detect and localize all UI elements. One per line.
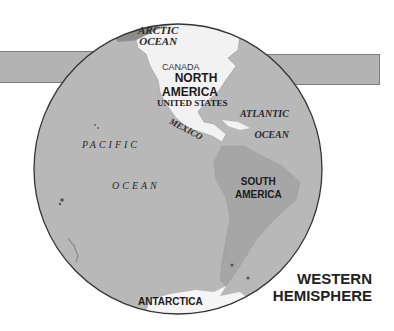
map-title: WESTERN HEMISPHERE xyxy=(262,270,372,304)
label-pacific-ocean-line1: PACIFIC xyxy=(82,140,140,150)
map-title-line1: WESTERN xyxy=(262,270,372,287)
label-atlantic-ocean: ATLANTIC OCEAN xyxy=(240,103,289,145)
label-arctic-line2: OCEAN xyxy=(138,36,178,47)
label-atlantic-line1: ATLANTIC xyxy=(240,103,289,124)
label-atlantic-line2: OCEAN xyxy=(240,124,289,145)
label-pacific-ocean-line2: OCEAN xyxy=(112,181,160,191)
label-south-america-line1: SOUTH xyxy=(235,175,282,188)
label-north-america-line2: AMERICA xyxy=(162,85,218,99)
label-antarctica: ANTARCTICA xyxy=(138,297,203,307)
label-arctic-ocean: ARCTIC OCEAN xyxy=(138,25,178,47)
map-title-line2: HEMISPHERE xyxy=(262,287,372,304)
label-south-america-line2: AMERICA xyxy=(235,188,282,201)
label-united-states: UNITED STATES xyxy=(157,99,227,108)
label-north-america-line1: NORTH xyxy=(162,71,218,85)
label-south-america: SOUTH AMERICA xyxy=(235,175,282,201)
label-north-america: NORTH AMERICA xyxy=(162,71,218,99)
